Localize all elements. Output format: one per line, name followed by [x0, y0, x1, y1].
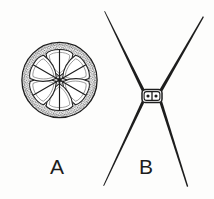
- figure-plate: A B: [0, 0, 214, 199]
- figure-b-label: B: [139, 156, 154, 177]
- figure-a-drawing: [22, 42, 97, 117]
- cell-chloroplast-left: [146, 94, 149, 97]
- figure-a-label: A: [50, 156, 65, 177]
- spine-lower-right: [159, 100, 188, 187]
- cell-chloroplast-right: [154, 94, 157, 97]
- figure-illustration-svg: [0, 0, 214, 199]
- spine-upper-right: [159, 16, 204, 92]
- spine-upper-left: [104, 11, 145, 92]
- central-nodule: [57, 78, 61, 82]
